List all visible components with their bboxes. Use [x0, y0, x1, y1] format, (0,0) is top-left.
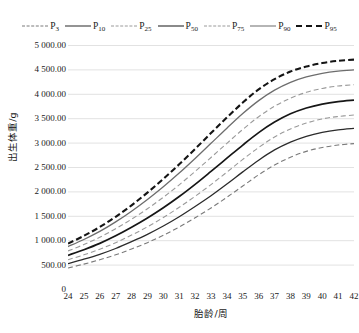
x-tick-label: 36	[254, 291, 263, 301]
y-tick-label: 4 500.00	[35, 64, 67, 74]
y-tick-label: 1 000.00	[35, 235, 67, 245]
legend-swatch-p75-icon	[204, 22, 230, 30]
x-tick-label: 29	[143, 291, 152, 301]
legend-swatch-p50-icon	[158, 22, 184, 30]
plot-area	[68, 45, 354, 289]
x-tick-label: 31	[175, 291, 184, 301]
legend-label-subscript: 25	[145, 25, 152, 33]
legend-label-subscript: 50	[191, 25, 198, 33]
plot-svg	[68, 45, 354, 289]
legend-swatch-p25-icon	[111, 22, 137, 30]
legend-swatch-p90-icon	[250, 22, 276, 30]
x-tick-label: 37	[270, 291, 279, 301]
y-tick-label: 3 000.00	[35, 138, 67, 148]
x-tick-label: 32	[191, 291, 200, 301]
legend-label-p75: P75	[232, 21, 244, 31]
x-axis-ticks: 24252627282930313233343536373839404142	[68, 291, 354, 305]
legend-label-subscript: 90	[283, 25, 290, 33]
y-tick-label: 2 000.00	[35, 186, 67, 196]
x-tick-label: 40	[318, 291, 327, 301]
legend-label-subscript: 3	[56, 25, 60, 33]
legend-label-p10: P10	[93, 21, 105, 31]
x-tick-label: 26	[95, 291, 104, 301]
x-tick-label: 28	[127, 291, 136, 301]
y-tick-label: 2 500.00	[35, 162, 67, 172]
series-line-p50	[68, 100, 354, 255]
x-tick-label: 33	[207, 291, 216, 301]
legend-item-p10[interactable]: P10	[65, 21, 105, 31]
x-tick-label: 27	[111, 291, 120, 301]
chart-legend: P3P10P25P50P75P90P95	[0, 16, 359, 36]
legend-label-subscript: 10	[98, 25, 105, 33]
y-axis-ticks: 0500.001 000.001 500.002 000.002 500.003…	[18, 45, 66, 289]
x-axis-label: 胎龄/周	[68, 306, 354, 320]
y-tick-label: 5 000.00	[35, 40, 67, 50]
series-line-p10	[68, 128, 354, 263]
birth-weight-percentile-chart: P3P10P25P50P75P90P95 出生体重/g 0500.001 000…	[0, 0, 359, 333]
y-tick-label: 500.00	[41, 260, 66, 270]
x-tick-label: 24	[64, 291, 73, 301]
legend-item-p25[interactable]: P25	[111, 21, 151, 31]
legend-label-subscript: 75	[237, 25, 244, 33]
x-tick-label: 41	[334, 291, 343, 301]
legend-swatch-p10-icon	[65, 22, 91, 30]
y-axis-label: 出生体重/g	[5, 92, 19, 182]
y-tick-label: 3 500.00	[35, 113, 67, 123]
legend-item-p90[interactable]: P90	[250, 21, 290, 31]
x-tick-label: 30	[159, 291, 168, 301]
x-tick-label: 34	[222, 291, 231, 301]
x-tick-label: 35	[238, 291, 247, 301]
legend-label-subscript: 95	[330, 25, 337, 33]
x-tick-label: 39	[302, 291, 311, 301]
series-line-p3	[68, 144, 354, 268]
legend-label-p3: P3	[50, 21, 59, 31]
legend-label-p50: P50	[186, 21, 198, 31]
x-tick-label: 42	[350, 291, 359, 301]
legend-swatch-p3-icon	[22, 22, 48, 30]
y-tick-label: 1 500.00	[35, 211, 67, 221]
legend-label-p95: P95	[324, 21, 336, 31]
x-tick-label: 25	[79, 291, 88, 301]
legend-item-p75[interactable]: P75	[204, 21, 244, 31]
legend-swatch-p95-icon	[296, 22, 322, 30]
legend-item-p95[interactable]: P95	[296, 21, 336, 31]
y-tick-label: 4 000.00	[35, 89, 67, 99]
legend-label-p90: P90	[278, 21, 290, 31]
legend-item-p3[interactable]: P3	[22, 21, 59, 31]
legend-item-p50[interactable]: P50	[158, 21, 198, 31]
legend-label-p25: P25	[139, 21, 151, 31]
x-tick-label: 38	[286, 291, 295, 301]
